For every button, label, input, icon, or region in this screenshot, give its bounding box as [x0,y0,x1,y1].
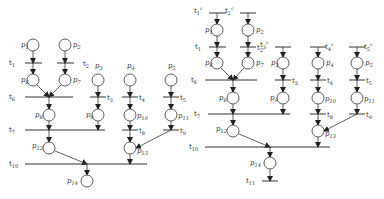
place-label-p2: p2 [73,41,81,50]
diagram-canvas: t1t2t6t3t4t5t7t8t9t10p1p2p6p7p3p4p5p8p9p… [0,0,384,199]
arc-arrow [55,151,87,164]
transition-label-t8: t8 [327,111,333,120]
place-p2 [59,39,71,51]
place-p13 [312,125,324,137]
place-p12 [43,142,55,154]
place-label-p7: p7 [73,76,81,85]
place-p2 [242,24,254,36]
transition-label-t5s: t5c [364,42,373,52]
place-p7 [242,57,254,69]
arc-arrow [233,68,244,80]
place-p3 [92,74,104,86]
place-p8 [227,92,239,104]
place-p14 [264,157,276,169]
place-p10 [124,109,136,121]
place-label-p4: p4 [326,59,334,68]
place-label-p8: p8 [219,94,227,103]
place-label-p14: p14 [250,159,261,168]
place-p9 [92,109,104,121]
place-p6 [211,57,223,69]
transition-label-t2s: t2c [225,6,234,16]
transition-label-t6: t6 [9,93,15,102]
place-label-p2: p2 [256,26,264,35]
transition-label-t4s: t4c [325,42,334,52]
transition-label-t2: t2 [83,60,89,69]
place-p6 [27,74,39,86]
place-label-p5: p5 [168,62,176,71]
transition-label-t3: t3 [292,77,298,86]
transition-label-t9: t9 [366,111,372,120]
transition-label-t6: t6 [191,76,197,85]
place-p5 [165,74,177,86]
place-label-p12: p12 [216,125,227,134]
place-p1 [27,39,39,51]
transition-label-t9: t9 [180,127,186,136]
place-p1 [211,24,223,36]
place-p3 [277,57,289,69]
place-p4 [312,57,324,69]
transition-label-t5: t5 [180,94,186,103]
transition-label-t4: t4 [139,94,145,103]
transition-label-t1s: t1c [194,6,203,16]
place-p11 [351,92,363,104]
place-label-p7: p7 [256,59,264,68]
place-label-p4: p4 [127,62,135,71]
place-label-p5: p5 [365,59,373,68]
place-label-p12: p12 [32,142,43,151]
place-label-p11: p11 [178,112,189,121]
arc-arrow [239,134,270,147]
transition-label-t10: t10 [189,143,198,152]
transition-label-t7: t7 [9,126,15,135]
place-label-p3: p3 [95,62,103,71]
transition-label-t3s: t3c [260,40,269,50]
place-p10 [312,92,324,104]
transition-label-t3: t3 [107,94,113,103]
place-p7 [59,74,71,86]
petri-net-right: t1ct2ct1t2t3ct4ct5ct6t3t4t5t7t8t9t10t11p… [189,6,375,186]
place-p11 [165,109,177,121]
place-p13 [124,142,136,154]
place-p12 [227,125,239,137]
place-label-p13: p13 [137,147,148,156]
place-label-p14: p14 [67,177,78,186]
place-p9 [277,92,289,104]
arc-arrow [37,85,49,97]
petri-net-figure: t1t2t6t3t4t5t7t8t9t10p1p2p6p7p3p4p5p8p9p… [0,0,384,199]
transition-label-t11: t11 [246,177,255,186]
place-label-p13: p13 [325,130,336,139]
place-label-p11: p11 [364,95,375,104]
transition-label-t1: t1 [195,43,201,52]
place-p8 [43,109,55,121]
transition-label-t4: t4 [327,77,333,86]
transition-label-t7: t7 [194,110,200,119]
place-label-p10: p10 [137,112,149,121]
transition-label-t1: t1 [9,59,15,68]
arc-arrow [49,85,61,97]
place-label-p8: p8 [35,111,43,120]
transition-label-t5: t5 [366,77,372,86]
place-label-p10: p10 [325,95,337,104]
place-p4 [124,74,136,86]
transition-label-t10: t10 [9,160,18,169]
place-p5 [351,57,363,69]
arc-arrow [221,68,233,80]
transition-label-t8: t8 [139,127,145,136]
place-p14 [81,175,93,187]
petri-net-left: t1t2t6t3t4t5t7t8t9t10p1p2p6p7p3p4p5p8p9p… [9,39,189,187]
